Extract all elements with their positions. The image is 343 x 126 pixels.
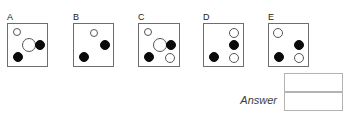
small-open-circle-top-right xyxy=(229,28,239,38)
option-box-e[interactable] xyxy=(268,23,309,67)
answer-field-top[interactable] xyxy=(284,73,343,92)
small-open-circle-bottom-right xyxy=(294,53,304,63)
option-label-c: C xyxy=(138,12,145,22)
filled-circle-bottom-left xyxy=(144,52,154,62)
small-open-circle-top-left xyxy=(13,28,21,36)
filled-circle-right xyxy=(100,40,110,50)
answer-field-bottom[interactable] xyxy=(284,92,343,111)
filled-circle-bottom-left xyxy=(274,52,284,62)
option-panel-a[interactable]: A xyxy=(7,12,48,67)
option-panel-b[interactable]: B xyxy=(73,12,114,67)
option-panel-c[interactable]: C xyxy=(138,12,180,67)
filled-circle-bottom-left xyxy=(79,52,89,62)
filled-circle-bottom-left xyxy=(209,52,219,62)
option-label-b: B xyxy=(73,12,79,22)
filled-circle-right xyxy=(294,40,304,50)
option-panel-e[interactable]: E xyxy=(268,12,309,67)
small-open-circle-top-left xyxy=(273,28,283,38)
option-box-a[interactable] xyxy=(7,23,48,67)
filled-circle-bottom-left xyxy=(13,52,23,62)
option-label-e: E xyxy=(268,12,274,22)
option-box-c[interactable] xyxy=(138,23,180,67)
answer-area: Answer xyxy=(200,72,343,116)
large-open-circle-center xyxy=(22,38,36,52)
puzzle-root: ABCDE Answer xyxy=(0,0,343,126)
filled-circle-right xyxy=(229,40,239,50)
option-panel-d[interactable]: D xyxy=(203,12,244,67)
small-open-circle-bottom-right xyxy=(165,53,175,63)
filled-circle-right xyxy=(166,40,176,50)
option-label-d: D xyxy=(203,12,210,22)
option-label-a: A xyxy=(7,12,13,22)
answer-label: Answer xyxy=(217,94,277,107)
option-box-b[interactable] xyxy=(73,23,114,67)
small-open-circle-bottom-right xyxy=(229,53,239,63)
large-open-circle-center xyxy=(153,38,167,52)
small-open-circle-top-left xyxy=(144,28,152,36)
option-box-d[interactable] xyxy=(203,23,244,67)
small-open-circle-top-center xyxy=(90,29,98,37)
filled-circle-right xyxy=(35,40,45,50)
